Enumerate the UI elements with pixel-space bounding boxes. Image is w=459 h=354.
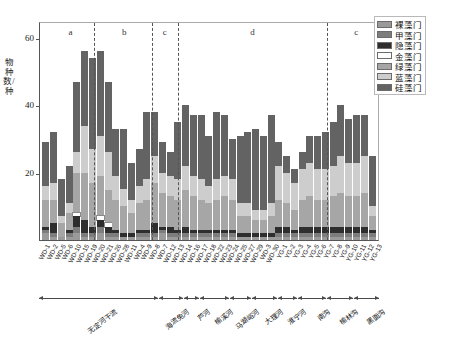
legend-swatch [377, 52, 392, 59]
bar-WD-3[interactable] [260, 23, 267, 240]
legend-swatch [377, 84, 392, 91]
bar-segment-隐藻门 [182, 227, 189, 234]
bar-WD-18[interactable] [205, 23, 212, 240]
legend-label: 硅藻门 [395, 81, 422, 93]
legend-swatch [377, 63, 392, 70]
bar-segment-硅藻门 [244, 132, 251, 203]
cluster-label-a: a [69, 27, 73, 37]
bar-WD-14[interactable] [182, 23, 189, 240]
bar-segment-隐藻门 [50, 223, 57, 233]
bar-segment-绿藻门 [120, 206, 127, 233]
bar-YG-1[interactable] [275, 23, 282, 240]
bar-WD-4[interactable] [136, 23, 143, 240]
legend-swatch [377, 31, 392, 38]
legend-item-甲藻门[interactable]: 甲藻门 [377, 30, 422, 40]
bar-segment-裸藻门 [120, 237, 127, 240]
bar-segment-绿藻门 [73, 173, 80, 213]
y-tick-label: 40 [12, 100, 34, 110]
bar-WD-10[interactable] [73, 23, 80, 240]
group-bracket-label: 芦河 [195, 306, 212, 322]
bar-WD-21[interactable] [105, 23, 112, 240]
bar-YG-8[interactable] [330, 23, 337, 240]
bar-segment-甲藻门 [73, 227, 80, 234]
bar-segment-隐藻门 [306, 227, 313, 234]
bar-WD-17[interactable] [198, 23, 205, 240]
bar-segment-绿藻门 [167, 196, 174, 226]
bar-WD-5[interactable] [58, 23, 65, 240]
bar-segment-硅藻门 [182, 105, 189, 166]
bar-segment-蓝藻门 [345, 163, 352, 197]
bar-segment-裸藻门 [268, 237, 275, 240]
bar-YG-12[interactable] [361, 23, 368, 240]
bar-WD-1[interactable] [42, 23, 49, 240]
bar-WD-6[interactable] [66, 23, 73, 240]
bar-WD-7[interactable] [159, 23, 166, 240]
legend-item-绿藻门[interactable]: 绿藻门 [377, 61, 422, 71]
legend-item-裸藻门[interactable]: 裸藻门 [377, 19, 422, 29]
group-bracket [230, 298, 251, 299]
bar-segment-蓝藻门 [314, 169, 321, 199]
bar-YG-2[interactable] [283, 23, 290, 240]
bar-WD-9[interactable] [143, 23, 150, 240]
bar-WD-11[interactable] [128, 23, 135, 240]
bar-segment-硅藻门 [105, 82, 112, 153]
bar-segment-蓝藻门 [128, 200, 135, 213]
bar-WD-24[interactable] [229, 23, 236, 240]
bar-segment-绿藻门 [275, 200, 282, 227]
bar-segment-蓝藻门 [190, 176, 197, 196]
bar-WD-15[interactable] [81, 23, 88, 240]
bar-segment-硅藻门 [213, 112, 220, 179]
bar-segment-蓝藻门 [205, 186, 212, 203]
bar-segment-裸藻门 [81, 237, 88, 240]
x-axis-labels: WD-1WD-2WD-5WD-6WD-10WD-15WD-19WD-20WD-2… [39, 243, 379, 289]
bar-YG-6[interactable] [314, 23, 321, 240]
bar-segment-裸藻门 [159, 233, 166, 240]
bar-YG-11[interactable] [353, 23, 360, 240]
bar-YG-10[interactable] [345, 23, 352, 240]
legend-item-硅藻门[interactable]: 硅藻门 [377, 82, 422, 92]
bar-segment-蓝藻门 [213, 179, 220, 199]
bar-WD-22[interactable] [213, 23, 220, 240]
bar-segment-绿藻门 [112, 200, 119, 230]
bar-segment-裸藻门 [66, 237, 73, 240]
legend-item-金藻门[interactable]: 金藻门 [377, 51, 422, 61]
bar-WD-16[interactable] [190, 23, 197, 240]
bar-WD-2[interactable] [50, 23, 57, 240]
bar-WD-25[interactable] [237, 23, 244, 240]
legend-swatch [377, 73, 392, 80]
bar-segment-蓝藻门 [42, 186, 49, 199]
bar-segment-绿藻门 [182, 190, 189, 227]
bar-YG-9[interactable] [337, 23, 344, 240]
group-bracket [184, 298, 199, 299]
bar-YG-3[interactable] [291, 23, 298, 240]
bar-WD-30[interactable] [268, 23, 275, 240]
bar-segment-裸藻门 [97, 233, 104, 240]
group-bracket [354, 298, 379, 299]
bar-segment-裸藻门 [105, 237, 112, 240]
bar-WD-23[interactable] [221, 23, 228, 240]
group-bracket [39, 298, 158, 299]
bar-WD-27[interactable] [244, 23, 251, 240]
bar-segment-蓝藻门 [244, 203, 251, 216]
bar-segment-蓝藻门 [143, 179, 150, 199]
legend-item-隐藻门[interactable]: 隐藻门 [377, 40, 422, 50]
bar-WD-28[interactable] [120, 23, 127, 240]
bar-segment-蓝藻门 [120, 189, 127, 206]
bar-segment-绿藻门 [361, 193, 368, 227]
legend-item-蓝藻门[interactable]: 蓝藻门 [377, 72, 422, 82]
bar-segment-绿藻门 [268, 216, 275, 233]
bar-YG-5[interactable] [306, 23, 313, 240]
bar-segment-硅藻门 [128, 163, 135, 200]
bar-WD-12[interactable] [167, 23, 174, 240]
cluster-divider [94, 23, 95, 240]
bar-segment-隐藻门 [353, 227, 360, 234]
bar-YG-4[interactable] [299, 23, 306, 240]
bar-segment-裸藻门 [306, 237, 313, 240]
bar-segment-蓝藻门 [81, 126, 88, 173]
bar-WD-29[interactable] [252, 23, 259, 240]
bar-segment-硅藻门 [112, 129, 119, 176]
bar-segment-蓝藻门 [330, 166, 337, 196]
bar-WD-20[interactable] [97, 23, 104, 240]
bar-segment-裸藻门 [237, 237, 244, 240]
bar-WD-26[interactable] [112, 23, 119, 240]
